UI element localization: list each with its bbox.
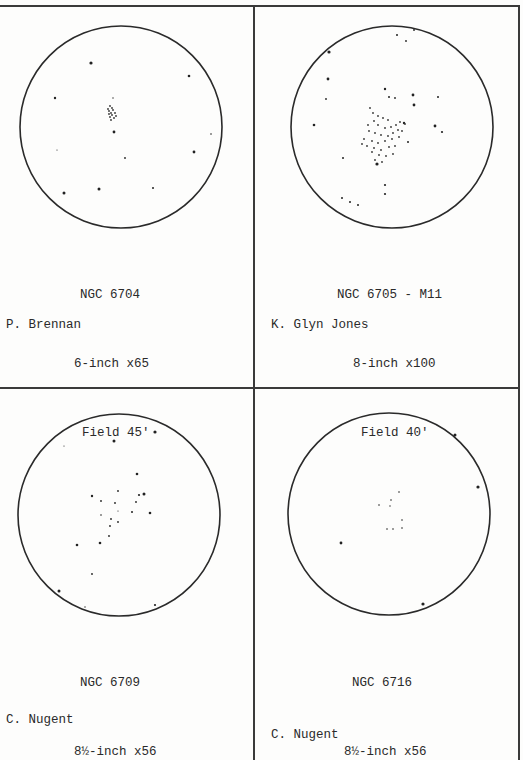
star-dot [398, 491, 400, 493]
star-dot [389, 505, 390, 506]
panel-ngc-6716 [0, 0, 523, 760]
star-dot [386, 528, 388, 530]
star-dot [421, 602, 424, 605]
observer-name: C. Nugent [271, 728, 339, 742]
field-circle [288, 413, 490, 615]
star-dot [390, 499, 392, 501]
star-dot [401, 527, 403, 529]
star-dot [392, 528, 394, 530]
instrument-spec: 8½-inch x56 [344, 741, 427, 760]
star-dot [454, 434, 457, 437]
star-dot [401, 519, 403, 521]
eyepiece-field-drawing [0, 0, 523, 760]
caption-ngc-6716: NGC 6716 8½-inch x56 Field 45' [352, 626, 427, 760]
star-dot [378, 504, 380, 506]
star-dot [340, 542, 343, 545]
star-dot [476, 485, 479, 488]
object-name: NGC 6716 [352, 672, 427, 695]
